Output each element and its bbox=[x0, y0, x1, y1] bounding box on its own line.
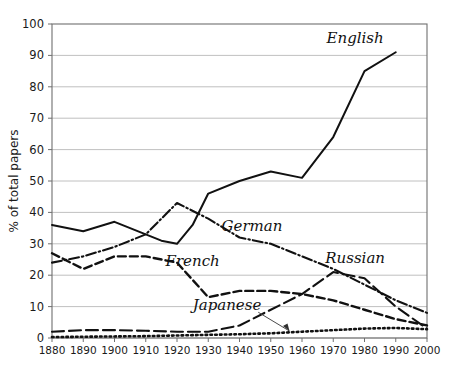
series-annotations: EnglishGermanFrenchRussianJapanese bbox=[165, 29, 385, 314]
y-tick-label: 50 bbox=[29, 174, 44, 188]
series-label-german: German bbox=[222, 217, 283, 235]
x-tick-label: 1990 bbox=[382, 344, 409, 356]
x-tick-label: 1940 bbox=[226, 344, 253, 356]
y-tick-label: 60 bbox=[29, 143, 44, 157]
series-label-japanese: Japanese bbox=[190, 296, 262, 314]
annotation-leader-lines bbox=[258, 312, 289, 331]
series-line-english bbox=[52, 52, 396, 244]
x-tick-label: 2000 bbox=[414, 344, 441, 356]
chart-canvas: 0102030405060708090100 18801890190019101… bbox=[0, 0, 450, 382]
x-tick-label: 1920 bbox=[164, 344, 191, 356]
y-tick-label: 80 bbox=[29, 80, 44, 94]
x-tick-label: 1890 bbox=[70, 344, 97, 356]
series-label-russian: Russian bbox=[324, 249, 385, 267]
y-tick-label: 100 bbox=[22, 17, 44, 31]
x-tick-label: 1950 bbox=[257, 344, 284, 356]
line-chart: 0102030405060708090100 18801890190019101… bbox=[0, 0, 450, 382]
y-tick-label: 90 bbox=[29, 48, 44, 62]
x-tick-label: 1880 bbox=[39, 344, 66, 356]
y-tick-label: 20 bbox=[29, 268, 44, 282]
y-tick-label: 30 bbox=[29, 237, 44, 251]
japanese-leader-line bbox=[258, 312, 289, 331]
y-tick-label: 70 bbox=[29, 111, 44, 125]
y-tick-label: 40 bbox=[29, 205, 44, 219]
x-tick-label: 1960 bbox=[289, 344, 316, 356]
y-axis-title: % of total papers bbox=[7, 129, 21, 232]
x-tick-label: 1970 bbox=[320, 344, 347, 356]
data-series bbox=[52, 52, 427, 337]
x-tick-label: 1930 bbox=[195, 344, 222, 356]
series-label-english: English bbox=[326, 29, 384, 47]
x-tick-label: 1980 bbox=[351, 344, 378, 356]
x-axis-tick-labels: 1880189019001910192019301940195019601970… bbox=[39, 338, 441, 356]
y-tick-label: 0 bbox=[37, 331, 44, 345]
y-tick-label: 10 bbox=[29, 300, 44, 314]
series-label-french: French bbox=[165, 252, 220, 270]
x-tick-label: 1910 bbox=[132, 344, 159, 356]
x-tick-label: 1900 bbox=[101, 344, 128, 356]
y-axis-tick-labels: 0102030405060708090100 bbox=[22, 17, 52, 345]
